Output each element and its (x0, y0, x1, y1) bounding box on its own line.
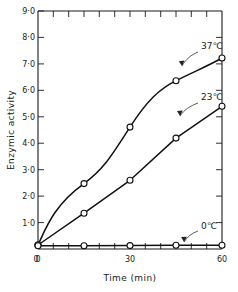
chart-figure: 9·0 8·0 7·0 6·0 5·0 4·0 3·0 2·0 1·0 0 (0, 0, 238, 292)
data-point (173, 242, 179, 248)
data-point (219, 103, 225, 109)
y-tick-label-9: 9·0 (22, 7, 35, 16)
annotation-0c-leader (184, 231, 198, 242)
annotation-23c: 23℃ (177, 92, 223, 116)
annotation-0c-label: 0℃ (201, 221, 217, 231)
y-axis-ticks (38, 11, 44, 223)
data-point (81, 181, 87, 187)
data-point (219, 55, 225, 61)
y-tick-label-4: 4·0 (22, 139, 35, 148)
y-tick-label-8: 8·0 (22, 33, 35, 42)
x-axis-title: Time (min) (103, 273, 157, 283)
y-tick-label-7: 7·0 (22, 60, 35, 69)
series-37c-line (38, 58, 222, 245)
y-tick-label-5: 5·0 (22, 113, 35, 122)
x-tick-label-60: 60 (217, 255, 227, 264)
annotation-23c-label: 23℃ (201, 92, 223, 102)
series-37c (35, 55, 225, 248)
data-point (35, 243, 41, 249)
right-axis-ticks (216, 37, 222, 222)
annotation-37c-leader (182, 52, 198, 66)
annotation-37c: 37℃ (179, 41, 223, 66)
x-axis-ticks-top (53, 11, 206, 17)
data-point (127, 177, 133, 183)
annotation-37c-label: 37℃ (201, 41, 223, 51)
y-tick-label-2: 2·0 (22, 192, 35, 201)
data-point (127, 124, 133, 130)
series-0c (35, 242, 225, 249)
x-tick-label-30: 30 (125, 255, 135, 264)
y-tick-label-3: 3·0 (22, 166, 35, 175)
enzymic-activity-line-chart: 9·0 8·0 7·0 6·0 5·0 4·0 3·0 2·0 1·0 0 (0, 0, 238, 292)
data-point (81, 210, 87, 216)
data-point (173, 78, 179, 84)
annotation-23c-leader (180, 103, 198, 116)
data-point (219, 242, 225, 248)
data-point (173, 135, 179, 141)
y-axis-tick-labels: 9·0 8·0 7·0 6·0 5·0 4·0 3·0 2·0 1·0 0 (22, 7, 38, 264)
y-tick-label-6: 6·0 (22, 86, 35, 95)
data-point (81, 243, 87, 249)
y-tick-label-1: 1·0 (22, 219, 35, 228)
x-tick-label-0: 0 (35, 255, 40, 264)
data-point (127, 243, 133, 249)
y-axis-title: Enzymic activity (6, 90, 16, 170)
x-axis-tick-labels: 0 30 60 (35, 255, 227, 264)
annotation-0c: 0℃ (181, 221, 217, 242)
